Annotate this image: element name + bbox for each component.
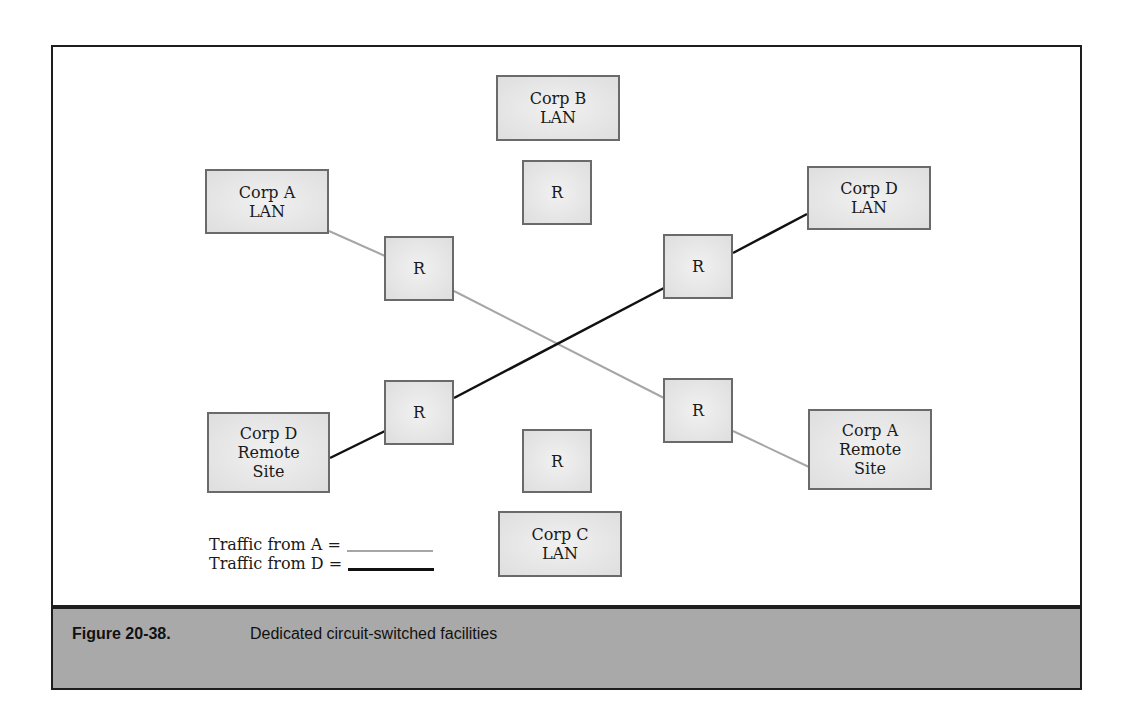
corp-c-lan-box: Corp C LAN <box>498 511 622 577</box>
corp-b-router-box: R <box>522 160 592 225</box>
router-a-bottom-box: R <box>663 378 733 443</box>
legend-label-traffic-a: Traffic from A = <box>209 535 341 554</box>
figure-number: Figure 20-38. <box>72 625 171 643</box>
figure-caption: Dedicated circuit-switched facilities <box>250 625 497 643</box>
link-d-router-to-remote <box>330 431 385 458</box>
corp-c-lan-label-2: LAN <box>542 544 578 563</box>
corp-a-lan-box: Corp A LAN <box>205 169 329 234</box>
router-label: R <box>551 183 563 202</box>
corp-d-remote-label-2: Remote <box>237 443 299 462</box>
corp-a-remote-label-1: Corp A <box>842 421 898 440</box>
corp-c-lan-label-1: Corp C <box>531 525 588 544</box>
router-label: R <box>692 401 704 420</box>
legend-row-traffic-a: Traffic from A = <box>209 535 434 554</box>
corp-d-lan-label-1: Corp D <box>840 179 898 198</box>
link-a-lan-to-router <box>329 231 385 256</box>
legend-label-traffic-d: Traffic from D = <box>209 554 342 573</box>
router-d-bottom-box: R <box>384 380 454 445</box>
corp-a-lan-label-1: Corp A <box>239 183 295 202</box>
corp-d-remote-site-box: Corp D Remote Site <box>207 412 330 493</box>
link-d-lan-to-router <box>733 214 807 253</box>
router-label: R <box>413 259 425 278</box>
legend-row-traffic-d: Traffic from D = <box>209 554 434 573</box>
router-label: R <box>413 403 425 422</box>
corp-b-lan-box: Corp B LAN <box>496 75 620 141</box>
corp-a-remote-label-3: Site <box>854 459 886 478</box>
router-d-top-box: R <box>663 234 733 299</box>
link-a-router-to-remote <box>733 431 809 467</box>
legend: Traffic from A = Traffic from D = <box>209 535 434 573</box>
router-label: R <box>692 257 704 276</box>
corp-a-remote-label-2: Remote <box>839 440 901 459</box>
corp-b-lan-label-1: Corp B <box>530 89 587 108</box>
router-label: R <box>551 452 563 471</box>
figure-caption-bar: Figure 20-38. Dedicated circuit-switched… <box>53 605 1080 688</box>
corp-a-lan-label-2: LAN <box>249 202 285 221</box>
corp-b-lan-label-2: LAN <box>540 108 576 127</box>
corp-d-remote-label-3: Site <box>253 462 285 481</box>
router-a-top-box: R <box>384 236 454 301</box>
corp-a-remote-site-box: Corp A Remote Site <box>808 409 932 490</box>
legend-swatch-gray-line <box>347 550 433 552</box>
corp-d-lan-label-2: LAN <box>851 198 887 217</box>
legend-swatch-black-line <box>348 568 434 571</box>
corp-d-lan-box: Corp D LAN <box>807 166 931 230</box>
corp-c-router-box: R <box>522 429 592 493</box>
corp-d-remote-label-1: Corp D <box>240 424 298 443</box>
